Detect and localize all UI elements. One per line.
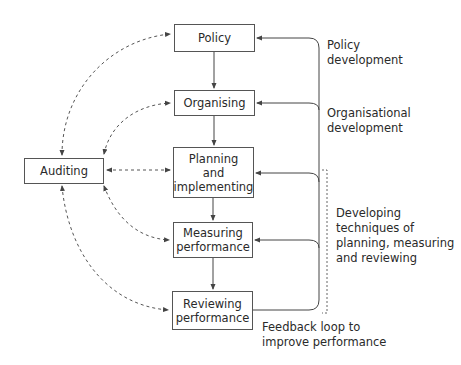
node-planning-label: Planning and implementing <box>174 152 254 194</box>
node-reviewing-performance: Reviewing performance <box>172 291 253 330</box>
feedback-loop-lines <box>253 38 319 310</box>
node-measuring-performance: Measuring performance <box>173 222 253 258</box>
annotation-feedback-loop: Feedback loop to improve performance <box>262 320 386 350</box>
node-auditing-label: Auditing <box>40 164 88 178</box>
annotation-developing-techniques: Developing techniques of planning, measu… <box>336 206 454 266</box>
node-reviewing-label: Reviewing performance <box>176 297 250 325</box>
node-organising-label: Organising <box>183 96 245 110</box>
node-measuring-label: Measuring performance <box>176 226 250 254</box>
node-policy: Policy <box>174 24 255 52</box>
node-policy-label: Policy <box>198 31 231 45</box>
annotation-policy-development: Policy development <box>327 38 403 68</box>
techniques-bracket <box>322 170 327 313</box>
node-auditing: Auditing <box>24 158 104 184</box>
diagram-canvas: Policy Organising Planning and implement… <box>0 0 461 365</box>
node-planning-implementing: Planning and implementing <box>173 147 254 198</box>
annotation-organisational-development: Organisational development <box>327 106 411 136</box>
node-organising: Organising <box>174 90 255 116</box>
